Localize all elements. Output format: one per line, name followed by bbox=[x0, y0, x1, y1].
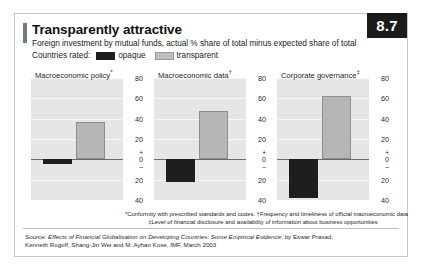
source-title: Effects of Financial Globalisation on De… bbox=[48, 233, 281, 240]
y-axis-tick: 60 bbox=[135, 94, 143, 103]
y-axis-tick: 40 bbox=[381, 196, 389, 205]
bar-transparent bbox=[76, 122, 105, 160]
plot-area bbox=[31, 78, 123, 200]
footnote-line-1: *Conformity with prescribed standards an… bbox=[125, 210, 401, 218]
footnotes: *Conformity with prescribed standards an… bbox=[125, 210, 401, 226]
y-axis-tick: 80 bbox=[135, 74, 143, 83]
footnote-line-2: ‡Level of financial disclosure and avail… bbox=[125, 218, 401, 226]
panel-title-marker: ‡ bbox=[357, 68, 360, 75]
y-axis-plus-sign: + bbox=[385, 149, 389, 156]
y-axis-tick: 40 bbox=[258, 196, 266, 205]
gridline bbox=[154, 98, 246, 99]
chart-panels: Macroeconomic policy*8060402002040+–Macr… bbox=[31, 66, 393, 208]
y-axis-minus-sign: – bbox=[385, 163, 389, 170]
y-axis-minus-sign: – bbox=[139, 163, 143, 170]
source-prefix: Source: bbox=[25, 233, 48, 240]
y-axis-tick: 40 bbox=[135, 114, 143, 123]
chart-subtitle: Foreign investment by mutual funds, actu… bbox=[32, 38, 356, 48]
legend-item-opaque: opaque bbox=[118, 51, 145, 60]
chart-card: 8.7 Transparently attractive Foreign inv… bbox=[14, 13, 408, 257]
y-axis-tick: 80 bbox=[381, 74, 389, 83]
y-axis-tick: 20 bbox=[258, 135, 266, 144]
y-axis-tick: 20 bbox=[135, 175, 143, 184]
page-title: Transparently attractive bbox=[32, 22, 182, 37]
bar-opaque bbox=[166, 159, 195, 181]
legend-swatch-transparent bbox=[155, 52, 174, 60]
chart-panel: Corporate governance‡8060402002040+– bbox=[277, 66, 391, 208]
bar-transparent bbox=[199, 111, 228, 160]
plot-area bbox=[154, 78, 246, 200]
y-axis-tick: 40 bbox=[135, 196, 143, 205]
divider bbox=[23, 228, 399, 229]
panel-title-marker: † bbox=[229, 68, 232, 75]
y-axis: 8060402002040+– bbox=[246, 78, 268, 200]
y-axis-plus-sign: + bbox=[139, 149, 143, 156]
plot-area bbox=[277, 78, 369, 200]
bar-opaque bbox=[289, 159, 318, 198]
y-axis-tick: 40 bbox=[258, 114, 266, 123]
legend-item-transparent: transparent bbox=[177, 51, 218, 60]
y-axis: 8060402002040+– bbox=[369, 78, 391, 200]
y-axis-tick: 20 bbox=[258, 175, 266, 184]
panel-title: Macroeconomic policy* bbox=[35, 68, 113, 80]
gridline bbox=[31, 119, 123, 120]
legend: Countries rated: opaque transparent bbox=[32, 51, 227, 60]
panel-title-marker: * bbox=[110, 68, 112, 75]
y-axis-tick: 60 bbox=[258, 94, 266, 103]
gridline bbox=[31, 98, 123, 99]
y-axis-tick: 20 bbox=[135, 135, 143, 144]
source-note: Source: Effects of Financial Globalisati… bbox=[25, 233, 355, 249]
bar-transparent bbox=[322, 96, 351, 159]
gridline bbox=[31, 180, 123, 181]
bar-opaque bbox=[43, 159, 72, 164]
y-axis-tick: 20 bbox=[381, 175, 389, 184]
y-axis-tick: 80 bbox=[258, 74, 266, 83]
panel-title: Macroeconomic data† bbox=[158, 68, 232, 80]
legend-swatch-opaque bbox=[96, 52, 115, 60]
y-axis: 8060402002040+– bbox=[123, 78, 145, 200]
y-axis-tick: 40 bbox=[381, 114, 389, 123]
legend-label: Countries rated: bbox=[32, 51, 90, 60]
chart-number-badge: 8.7 bbox=[367, 13, 407, 38]
panel-title: Corporate governance‡ bbox=[281, 68, 360, 80]
y-axis-minus-sign: – bbox=[262, 163, 266, 170]
chart-panel: Macroeconomic data†8060402002040+– bbox=[154, 66, 268, 208]
title-accent-bar bbox=[23, 23, 27, 43]
y-axis-tick: 20 bbox=[381, 135, 389, 144]
y-axis-tick: 60 bbox=[381, 94, 389, 103]
chart-number: 8.7 bbox=[376, 17, 397, 34]
chart-panel: Macroeconomic policy*8060402002040+– bbox=[31, 66, 145, 208]
y-axis-plus-sign: + bbox=[262, 149, 266, 156]
